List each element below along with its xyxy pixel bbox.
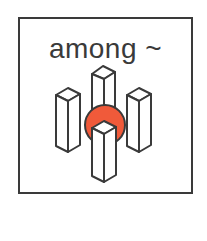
among-pictogram — [0, 0, 207, 241]
pillar-icon-right — [127, 88, 151, 152]
pillar-icon-left — [56, 88, 80, 152]
pillar-icon-front — [92, 121, 116, 182]
